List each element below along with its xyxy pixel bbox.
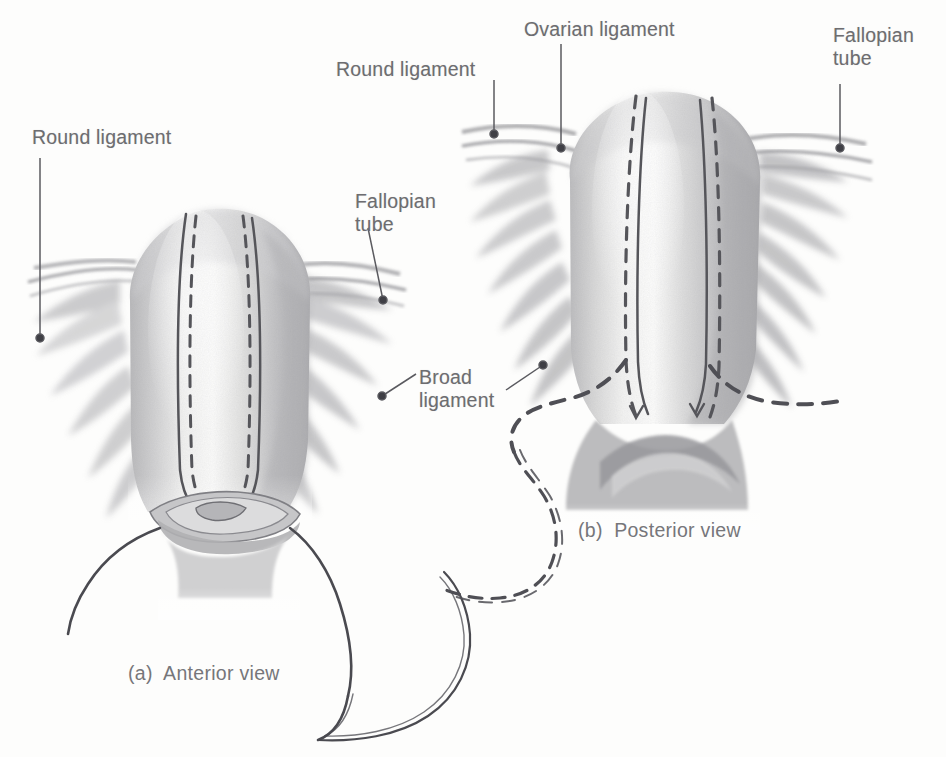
- anatomical-figure: Round ligament Fallopian tube Broad liga…: [0, 0, 946, 757]
- leader-broad-ligament-left: [378, 374, 416, 400]
- caption-posterior-view: (b) Posterior view: [578, 519, 741, 542]
- cervix-posterior: [560, 420, 760, 530]
- leader-fallopian-tube-right: [836, 84, 844, 152]
- figure-a-anterior-view: [28, 209, 470, 741]
- uterus-body-posterior: [570, 90, 761, 424]
- label-fallopian-tube-right: Fallopian tube: [833, 24, 914, 70]
- leader-ovarian-ligament: [557, 44, 565, 152]
- fallopian-tube-left-structure: [28, 260, 142, 296]
- leader-round-ligament-left: [36, 158, 44, 342]
- label-round-ligament-left: Round ligament: [32, 126, 171, 149]
- label-broad-ligament: Broad ligament: [419, 366, 494, 412]
- uterus-body-anterior: [128, 209, 312, 520]
- label-round-ligament-right: Round ligament: [336, 58, 475, 81]
- label-ovarian-ligament: Ovarian ligament: [524, 18, 675, 41]
- label-fallopian-tube-left: Fallopian tube: [355, 190, 436, 236]
- cervix-and-vaginal-cuff: [150, 492, 300, 620]
- caption-anterior-view: (a) Anterior view: [128, 662, 280, 685]
